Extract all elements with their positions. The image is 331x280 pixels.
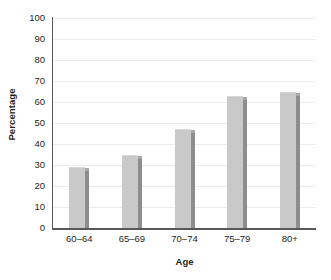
bar-group [280, 18, 300, 228]
bar [122, 155, 138, 228]
y-axis-line [52, 17, 53, 229]
x-axis-tick-label: 65–69 [119, 233, 145, 244]
y-axis-tick-label: 10 [34, 202, 45, 212]
bar-shadow-top [85, 168, 89, 171]
bar-shadow-top [138, 156, 142, 159]
bar-shadow-top [296, 93, 300, 96]
bar-group [122, 18, 142, 228]
bar-shadow-top [191, 130, 195, 133]
y-axis-tick-label: 30 [34, 160, 45, 170]
x-axis-tick-label: 80+ [282, 233, 298, 244]
y-axis-tick-label: 50 [34, 118, 45, 128]
x-axis-tick-label: 75–79 [224, 233, 250, 244]
x-axis-tick-label: 70–74 [171, 233, 197, 244]
y-axis-tick-label: 20 [34, 181, 45, 191]
bar [280, 92, 296, 228]
y-axis-tick-label: 40 [34, 139, 45, 149]
bar-group [175, 18, 195, 228]
x-axis-title: Age [53, 256, 316, 267]
bar-group [227, 18, 247, 228]
bars-layer [53, 18, 316, 228]
bar-shadow [85, 171, 89, 228]
bar-shadow [243, 100, 247, 228]
bar-shadow [138, 159, 142, 228]
bar [69, 167, 85, 228]
bar-chart-figure: Percentage 0102030405060708090100 60–646… [0, 0, 331, 280]
plot-area [53, 18, 316, 228]
y-axis-tick-labels: 0102030405060708090100 [20, 18, 49, 228]
y-axis-tick-label: 80 [34, 55, 45, 65]
y-axis-tick-label: 0 [40, 223, 45, 233]
bar [227, 96, 243, 228]
y-axis-tick-label: 90 [34, 34, 45, 44]
x-axis-tick-label: 60–64 [66, 233, 92, 244]
y-axis-tick-label: 70 [34, 76, 45, 86]
y-axis-tick-label: 60 [34, 97, 45, 107]
x-axis-line [52, 228, 316, 230]
bar-shadow-top [243, 97, 247, 100]
x-axis-tick-labels: 60–6465–6970–7475–7980+ [53, 233, 316, 249]
bar-group [69, 18, 89, 228]
y-axis-tick-label: 100 [29, 13, 45, 23]
bar [175, 129, 191, 228]
bar-shadow [296, 96, 300, 228]
y-axis-title: Percentage [0, 0, 22, 228]
y-axis-title-label: Percentage [6, 88, 17, 140]
bar-shadow [191, 133, 195, 228]
